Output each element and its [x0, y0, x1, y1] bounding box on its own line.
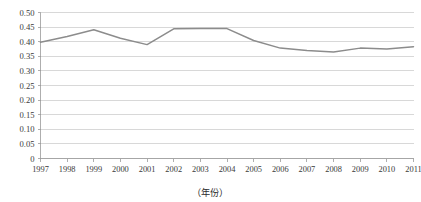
x-axis-title: （年份） [192, 187, 228, 198]
y-tick-label: 0.45 [19, 22, 34, 32]
x-tick-label: 2009 [352, 165, 369, 174]
y-tick-label: 0.25 [19, 81, 34, 91]
y-axis-tick-labels: 00.050.100.150.200.250.300.350.400.450.5… [19, 8, 34, 164]
x-tick-label: 2001 [139, 165, 156, 174]
x-tick-label: 2007 [299, 165, 316, 174]
x-tick-label: 2002 [165, 165, 182, 174]
y-tick-label: 0.40 [19, 37, 34, 47]
x-tick-label: 2004 [219, 165, 237, 174]
y-tick-label: 0.30 [19, 66, 34, 76]
x-tick-label: 1997 [32, 165, 49, 174]
y-tick-label: 0.15 [19, 110, 34, 120]
y-tick-label: 0.05 [19, 139, 34, 149]
x-tick-label: 2005 [245, 165, 262, 174]
x-tick-label: 2003 [192, 165, 209, 174]
x-tick-label: 1998 [59, 165, 76, 174]
x-tick-label: 1999 [85, 165, 102, 174]
y-tick-label: 0.50 [19, 8, 34, 18]
x-axis-tick-labels: 1997199819992000200120022003200420052006… [32, 165, 421, 174]
y-tick-label: 0.35 [19, 51, 34, 61]
y-tick-label: 0.20 [19, 95, 34, 105]
x-tick-label: 2011 [405, 165, 421, 174]
y-tick-label: 0.10 [19, 124, 34, 134]
line-chart-figure: 00.050.100.150.200.250.300.350.400.450.5… [0, 0, 421, 202]
x-tick-label: 2000 [112, 165, 129, 174]
x-tick-label: 2008 [325, 165, 342, 174]
x-tick-label: 2006 [272, 165, 289, 174]
chart-plot-area: 00.050.100.150.200.250.300.350.400.450.5… [0, 0, 421, 202]
y-tick-label: 0 [30, 154, 34, 164]
x-tick-label: 2010 [378, 165, 395, 174]
